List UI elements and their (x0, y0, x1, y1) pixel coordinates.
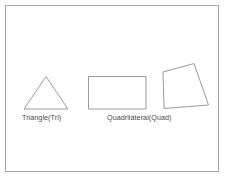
quadrilateral-label: Quadrilateral(Quad) (107, 113, 171, 122)
rectangle-shape (89, 77, 147, 110)
shapes-figure: Triangle(Tri) Quadrilateral(Quad) (0, 0, 228, 181)
figure-canvas (0, 0, 228, 181)
triangle-shape (24, 77, 68, 110)
irregular-quadrilateral-shape (163, 64, 209, 109)
triangle-label: Triangle(Tri) (22, 113, 61, 122)
